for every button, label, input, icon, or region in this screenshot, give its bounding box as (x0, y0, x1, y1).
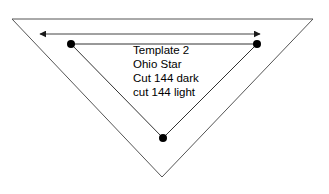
label-line-cut-light: cut 144 light (133, 85, 253, 99)
label-line-cut-dark: Cut 144 dark (133, 71, 253, 85)
vertex-dot-right (253, 40, 261, 48)
vertex-dot-bottom (159, 134, 167, 142)
template-label-block: Template 2 Ohio Star Cut 144 dark cut 14… (133, 43, 253, 99)
label-line-pattern: Ohio Star (133, 57, 253, 71)
diagram-canvas: Template 2 Ohio Star Cut 144 dark cut 14… (0, 0, 329, 194)
vertex-dot-left (67, 40, 75, 48)
label-line-template: Template 2 (133, 43, 253, 57)
